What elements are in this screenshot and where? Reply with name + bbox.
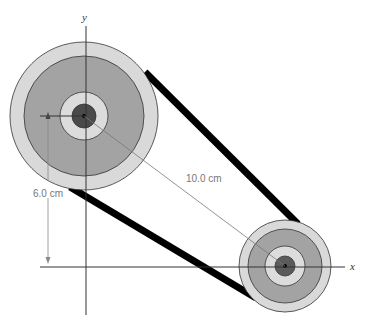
y-axis-label: y (81, 11, 87, 23)
upper-belt (145, 72, 298, 224)
x-axis-label: x (349, 260, 355, 272)
vertical-dimension-label: 6.0 cm (33, 188, 63, 199)
belt-pulley-diagram: y x 10.0 cm 6.0 cm (0, 0, 369, 326)
down-arrowhead-icon (46, 257, 51, 264)
center-distance-label: 10.0 cm (186, 173, 222, 184)
center-distance-line (84, 116, 285, 266)
lower-belt (70, 187, 256, 298)
